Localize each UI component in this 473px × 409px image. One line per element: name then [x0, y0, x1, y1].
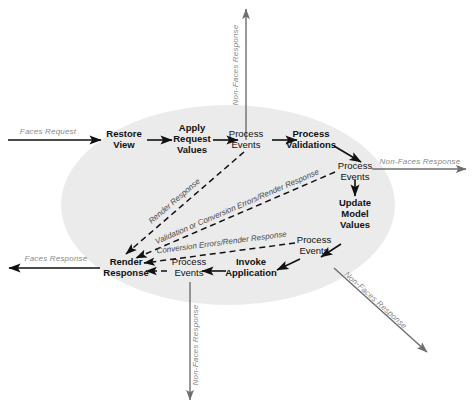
phase-process-events-3: Process Events: [297, 234, 332, 256]
phase-process-events-3-line1: Process: [297, 234, 332, 245]
phase-render-response: Render Response: [103, 256, 148, 278]
phase-process-validations-line1: Process: [293, 128, 330, 139]
phase-process-events-2: Process Events: [338, 160, 373, 182]
phase-restore-view-line1: Restore: [106, 128, 141, 139]
phase-invoke-application-line2: Application: [225, 267, 277, 278]
diagram-canvas: Faces Request Faces Response Non-Faces R…: [0, 0, 473, 409]
phase-process-validations: Process Validations: [286, 128, 336, 150]
phase-render-response-line2: Response: [103, 267, 148, 278]
phase-process-events-2-line1: Process: [338, 160, 373, 171]
phase-restore-view-line2: View: [113, 139, 135, 150]
label-non-faces-response-top: Non-Faces Response: [231, 24, 240, 105]
phase-process-events-1: Process Events: [229, 128, 264, 150]
phase-update-model-values-line2: Model: [341, 208, 368, 219]
phase-update-model-values-line3: Values: [340, 219, 370, 230]
phase-process-events-4-line2: Events: [174, 267, 203, 278]
phase-process-events-4-line1: Process: [172, 256, 207, 267]
phase-update-model-values: Update Model Values: [339, 197, 371, 230]
phase-process-events-2-line2: Events: [340, 171, 369, 182]
label-faces-request: Faces Request: [20, 127, 77, 136]
phase-process-events-4: Process Events: [172, 256, 207, 278]
phase-process-events-3-line2: Events: [299, 245, 328, 256]
phase-update-model-values-line1: Update: [339, 197, 371, 208]
phase-apply-request-values-line1: Apply: [179, 122, 206, 133]
phase-process-validations-line2: Validations: [286, 139, 336, 150]
label-faces-response: Faces Response: [25, 254, 88, 263]
label-non-faces-response-right: Non-Faces Response: [380, 157, 461, 166]
label-non-faces-response-bottom: Non-Faces Response: [191, 304, 200, 385]
label-non-faces-response-diagonal: Non-Faces Response: [343, 270, 409, 331]
phase-process-events-1-line1: Process: [229, 128, 264, 139]
phase-invoke-application-line1: Invoke: [236, 256, 266, 267]
phase-apply-request-values-line2: Request: [173, 133, 211, 144]
phase-render-response-line1: Render: [110, 256, 143, 267]
jsf-lifecycle-diagram: Faces Request Faces Response Non-Faces R…: [0, 0, 473, 409]
phase-process-events-1-line2: Events: [231, 139, 260, 150]
phase-apply-request-values-line3: Values: [177, 144, 207, 155]
